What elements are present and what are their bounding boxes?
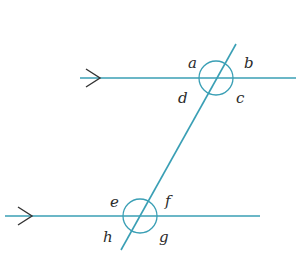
diagram-svg: a b c d e f g h [0,0,296,259]
angle-label-e: e [110,193,119,211]
angle-label-d: d [178,89,188,107]
angle-label-g: g [159,228,169,246]
angle-label-b: b [244,54,254,72]
angle-label-c: c [236,89,245,107]
parallel-lines-diagram: a b c d e f g h [0,0,296,259]
transversal-line [121,44,236,250]
angle-label-h: h [103,228,113,246]
angle-label-a: a [188,54,197,72]
angle-label-f: f [164,192,173,210]
